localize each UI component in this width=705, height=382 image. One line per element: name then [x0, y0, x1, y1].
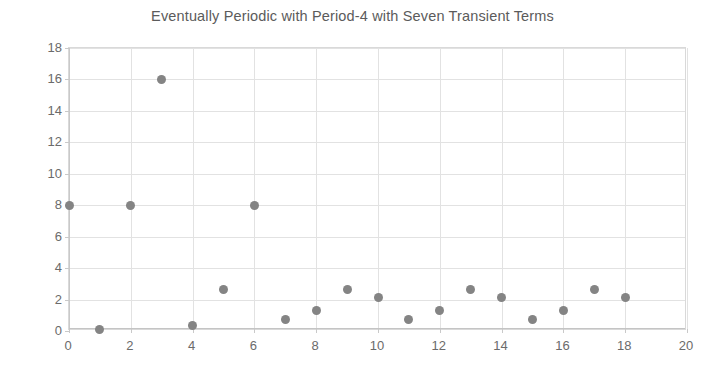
- gridline-horizontal: [69, 205, 685, 206]
- gridline-vertical: [254, 48, 255, 329]
- data-point: [219, 285, 228, 294]
- tickmark-x: [563, 329, 564, 333]
- y-tick-label: 8: [16, 197, 62, 212]
- x-tick-label: 16: [542, 338, 582, 353]
- gridline-vertical: [131, 48, 132, 329]
- y-axis-line: [69, 48, 70, 329]
- tickmark-y: [65, 142, 69, 143]
- y-tick-label: 6: [16, 228, 62, 243]
- data-point: [466, 285, 475, 294]
- tickmark-y: [65, 268, 69, 269]
- tickmark-y: [65, 300, 69, 301]
- tickmark-x: [316, 329, 317, 333]
- gridline-horizontal: [69, 237, 685, 238]
- x-tick-label: 12: [419, 338, 459, 353]
- data-point: [497, 293, 506, 302]
- y-tick-label: 4: [16, 260, 62, 275]
- tickmark-y: [65, 174, 69, 175]
- data-point: [157, 75, 166, 84]
- data-point: [250, 201, 259, 210]
- plot-area: [68, 47, 686, 330]
- chart-title: Eventually Periodic with Period-4 with S…: [0, 8, 705, 24]
- tickmark-y: [65, 237, 69, 238]
- x-tick-label: 2: [110, 338, 150, 353]
- tickmark-x: [131, 329, 132, 333]
- gridline-horizontal: [69, 268, 685, 269]
- x-tick-label: 18: [604, 338, 644, 353]
- y-axis-labels: 024681012141618: [10, 47, 62, 330]
- tickmark-y: [65, 48, 69, 49]
- x-tick-label: 8: [295, 338, 335, 353]
- tickmark-x: [625, 329, 626, 333]
- data-point: [621, 293, 630, 302]
- gridline-vertical: [563, 48, 564, 329]
- data-point: [95, 325, 104, 334]
- data-point: [343, 285, 352, 294]
- gridline-vertical: [440, 48, 441, 329]
- data-point: [126, 201, 135, 210]
- tickmark-x: [254, 329, 255, 333]
- tickmark-x: [69, 329, 70, 333]
- tickmark-x: [502, 329, 503, 333]
- data-point: [528, 315, 537, 324]
- tickmark-x: [378, 329, 379, 333]
- data-point: [374, 293, 383, 302]
- y-tick-label: 10: [16, 165, 62, 180]
- gridline-vertical: [502, 48, 503, 329]
- tickmark-x: [440, 329, 441, 333]
- gridline-horizontal: [69, 111, 685, 112]
- data-point: [281, 315, 290, 324]
- y-tick-label: 18: [16, 40, 62, 55]
- data-point: [65, 201, 74, 210]
- data-point: [404, 315, 413, 324]
- gridline-vertical: [316, 48, 317, 329]
- gridline-horizontal: [69, 48, 685, 49]
- gridline-vertical: [378, 48, 379, 329]
- x-tick-label: 6: [233, 338, 273, 353]
- y-tick-label: 16: [16, 71, 62, 86]
- y-tick-label: 0: [16, 323, 62, 338]
- gridline-vertical: [625, 48, 626, 329]
- tickmark-x: [687, 329, 688, 333]
- data-point: [312, 306, 321, 315]
- tickmark-y: [65, 111, 69, 112]
- data-point: [188, 321, 197, 330]
- gridline-vertical: [687, 48, 688, 329]
- x-tick-label: 4: [172, 338, 212, 353]
- x-axis-line: [69, 328, 685, 329]
- tickmark-y: [65, 79, 69, 80]
- data-point: [559, 306, 568, 315]
- gridline-horizontal: [69, 142, 685, 143]
- gridline-horizontal: [69, 174, 685, 175]
- x-tick-label: 0: [48, 338, 88, 353]
- x-axis-labels: 02468101214161820: [68, 338, 686, 358]
- x-tick-label: 10: [357, 338, 397, 353]
- y-tick-label: 14: [16, 102, 62, 117]
- y-tick-label: 2: [16, 291, 62, 306]
- y-tick-label: 12: [16, 134, 62, 149]
- x-tick-label: 14: [481, 338, 521, 353]
- x-tick-label: 20: [666, 338, 705, 353]
- gridline-vertical: [193, 48, 194, 329]
- data-point: [435, 306, 444, 315]
- chart-figure: Eventually Periodic with Period-4 with S…: [0, 0, 705, 382]
- data-point: [590, 285, 599, 294]
